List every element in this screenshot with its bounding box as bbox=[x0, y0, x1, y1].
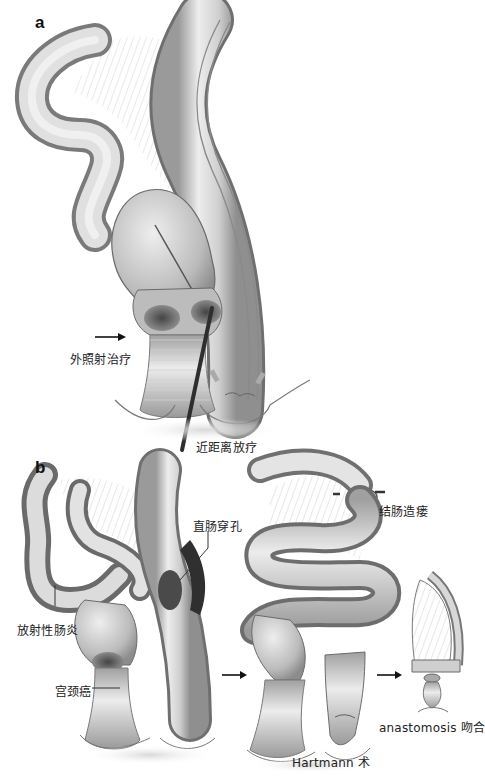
label-rectal-perforation: 直肠穿孔 bbox=[193, 517, 242, 534]
panel-b-label: b bbox=[35, 458, 45, 478]
label-radiation-enteritis: 放射性肠炎 bbox=[17, 621, 78, 638]
label-external-beam-radiotherapy: 外照射治疗 bbox=[70, 350, 131, 367]
panel-b-right-artwork bbox=[412, 575, 460, 712]
panel-b-middle-artwork bbox=[247, 462, 386, 773]
label-brachytherapy: 近距离放疗 bbox=[196, 438, 257, 455]
panel-b-left-artwork bbox=[34, 470, 215, 765]
panel-a-artwork bbox=[32, 20, 310, 450]
label-hartmann-procedure: Hartmann 术 bbox=[292, 753, 370, 770]
label-colostomy: 结肠造瘘 bbox=[379, 502, 428, 519]
panel-a-label: a bbox=[35, 13, 44, 33]
illustration-artwork bbox=[0, 0, 485, 781]
medical-illustration: a 外照射治疗 近距离放疗 b 直肠穿孔 放射性肠炎 宫颈癌 结肠造瘘 Hart… bbox=[0, 0, 485, 781]
label-anastomosis: anastomosis 吻合 bbox=[379, 718, 485, 735]
label-cervical-cancer: 宫颈癌 bbox=[55, 682, 92, 699]
